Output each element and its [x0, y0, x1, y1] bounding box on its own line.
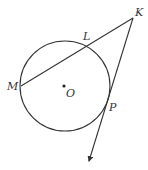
- label-o: O: [66, 87, 75, 100]
- geometry-diagram: K L M O P: [0, 0, 148, 170]
- label-m: M: [6, 80, 19, 93]
- secant-km: [21, 18, 133, 86]
- tangent-ray-kp: [89, 18, 133, 161]
- label-p: P: [108, 101, 117, 114]
- label-l: L: [82, 30, 90, 43]
- label-k: K: [134, 6, 144, 19]
